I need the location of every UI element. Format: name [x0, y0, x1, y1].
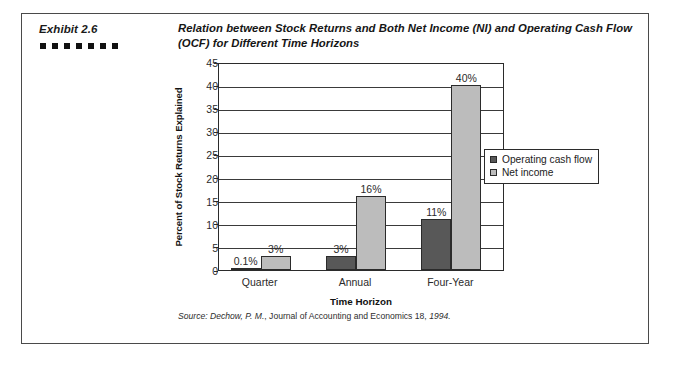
- bar-four-year-ocf: [421, 219, 451, 270]
- legend-swatch-icon: [490, 169, 497, 176]
- x-category-label: Annual: [339, 276, 372, 288]
- bar-annual-ni: [356, 196, 386, 270]
- exhibit-dot: [112, 43, 118, 49]
- exhibit-dot: [40, 43, 46, 49]
- source-prefix: Source:: [178, 311, 208, 321]
- bar-annual-ocf: [326, 256, 356, 270]
- legend-label: Operating cash flow: [502, 154, 592, 165]
- y-axis-ticks: 051015202530354045: [188, 63, 218, 271]
- exhibit-header: Exhibit 2.6 Relation between Stock Retur…: [22, 14, 648, 62]
- exhibit-dot: [64, 43, 70, 49]
- bar-value-label: 16%: [360, 183, 381, 195]
- legend-item: Operating cash flow: [490, 153, 592, 166]
- source-author: Dechow, P. M.: [210, 311, 264, 321]
- exhibit-dot: [100, 43, 106, 49]
- bar-value-label: 11%: [426, 206, 446, 218]
- legend-swatch-icon: [490, 156, 497, 163]
- source-year: 1994.: [429, 311, 451, 321]
- bar-value-label: 40%: [456, 72, 477, 84]
- legend-item: Net income: [490, 166, 592, 179]
- exhibit-dot: [76, 43, 82, 49]
- exhibit-dot: [88, 43, 94, 49]
- exhibit-frame: Exhibit 2.6 Relation between Stock Retur…: [21, 13, 649, 344]
- source-note: Source: Dechow, P. M., Journal of Accoun…: [178, 311, 451, 321]
- x-category-label: Four-Year: [427, 276, 473, 288]
- bar-four-year-ni: [451, 85, 481, 270]
- bar-quarter-ni: [261, 256, 291, 270]
- legend-label: Net income: [502, 167, 554, 178]
- x-category-label: Quarter: [242, 276, 278, 288]
- bar-quarter-ocf: [231, 268, 261, 271]
- exhibit-label: Exhibit 2.6: [39, 23, 98, 35]
- y-axis-title: Percent of Stock Returns Explained: [173, 63, 187, 271]
- x-axis-title: Time Horizon: [218, 296, 504, 307]
- bar-value-label: 3%: [333, 243, 348, 255]
- chart-area: Percent of Stock Returns Explained 05101…: [22, 62, 650, 345]
- bar-value-label: 0.1%: [234, 255, 258, 267]
- chart-legend: Operating cash flowNet income: [484, 149, 599, 184]
- exhibit-dot: [52, 43, 58, 49]
- bar-value-label: 3%: [268, 243, 283, 255]
- exhibit-title: Relation between Stock Returns and Both …: [178, 21, 633, 51]
- exhibit-dot-decoration: [40, 43, 118, 49]
- source-rest: , Journal of Accounting and Economics 18…: [264, 311, 426, 321]
- plot-area: 0.1%3%3%16%11%40%: [218, 63, 504, 271]
